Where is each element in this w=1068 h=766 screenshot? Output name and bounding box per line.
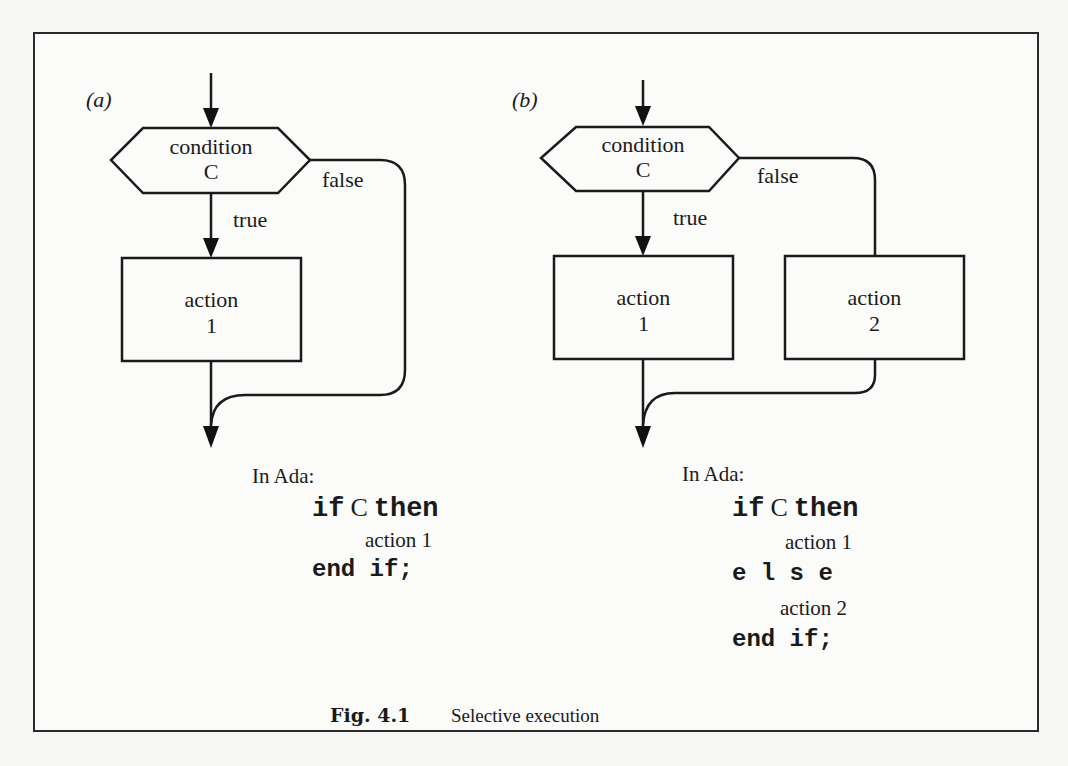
condition-a-line1: condition: [150, 135, 272, 159]
arrow-head-icon: [635, 426, 651, 448]
arrow-head-icon: [203, 238, 219, 258]
keyword-if: if: [732, 494, 764, 524]
code-action2-b: action 2: [780, 594, 847, 622]
false-label-b: false: [757, 164, 799, 188]
condition-b-line2: C: [582, 158, 704, 182]
arrow-head-icon: [635, 106, 651, 126]
code-end-if-a: end if;: [312, 556, 413, 584]
arrow-head-icon: [203, 426, 219, 448]
true-label-b: true: [673, 206, 707, 230]
panel-b-tag: (b): [512, 88, 538, 112]
action2-b-line2: 2: [785, 312, 964, 336]
code-intro-a: In Ada:: [252, 464, 314, 488]
figure-number: Fig. 4.1: [330, 704, 410, 726]
code-action1-a: action 1: [365, 526, 432, 554]
panel-a-tag: (a): [86, 88, 112, 112]
figure-caption: Fig. 4.1 Selective execution: [330, 704, 599, 727]
flowchart-graphics: [0, 0, 1068, 766]
action2-b-line1: action: [785, 286, 964, 310]
keyword-then: then: [374, 494, 439, 524]
action1-b-line2: 1: [554, 312, 733, 336]
panel-a-graphics: [111, 73, 405, 448]
code-line-if-a: if C then: [312, 494, 439, 523]
action1-a-line1: action: [122, 288, 301, 312]
condition-c: C: [770, 493, 787, 522]
code-line-if-b: if C then: [732, 494, 859, 523]
condition-a-line2: C: [150, 160, 272, 184]
condition-c: C: [350, 493, 367, 522]
action1-a-line2: 1: [122, 314, 301, 338]
code-end-if-b: end if;: [732, 626, 833, 654]
arrow-head-icon: [203, 108, 219, 128]
code-intro-b: In Ada:: [682, 462, 744, 486]
code-action1-b: action 1: [785, 528, 852, 556]
action1-b-line1: action: [554, 286, 733, 310]
keyword-if: if: [312, 494, 344, 524]
condition-b-line1: condition: [582, 133, 704, 157]
code-else-b: e l s e: [732, 560, 833, 588]
false-label-a: false: [322, 168, 364, 192]
true-label-a: true: [233, 208, 267, 232]
figure-title: Selective execution: [451, 705, 599, 726]
arrow-head-icon: [635, 236, 651, 256]
keyword-then: then: [794, 494, 859, 524]
